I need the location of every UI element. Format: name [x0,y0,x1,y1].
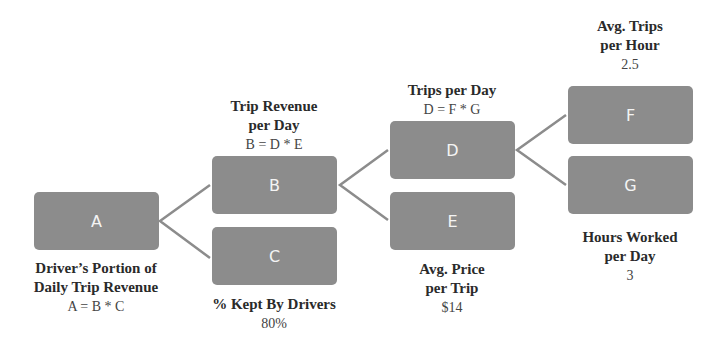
node-d-box: D [390,121,515,179]
node-a-title-1: Driver’s Portion of [6,259,186,278]
node-g-title-1: Hours Worked [540,228,720,247]
node-f-value: 2.5 [540,55,720,74]
node-c-box: C [212,227,337,285]
node-b-title-2: per Day [184,116,364,135]
node-a-title-2: Daily Trip Revenue [6,278,186,297]
node-c-value: 80% [184,314,364,333]
node-c-title: % Kept By Drivers [184,295,364,314]
node-a-box: A [34,192,159,250]
node-e-title-2: per Trip [362,279,542,298]
node-d-title: Trips per Day [362,81,542,100]
node-e-title-1: Avg. Price [362,260,542,279]
node-g-title-2: per Day [540,247,720,266]
node-c-label: % Kept By Drivers 80% [184,295,364,333]
node-b-title-1: Trip Revenue [184,97,364,116]
node-e-value: $14 [362,298,542,317]
node-e-label: Avg. Price per Trip $14 [362,260,542,317]
node-g-value: 3 [540,266,720,285]
node-d-label: Trips per Day D = F * G [362,81,542,119]
node-f-box: F [568,86,693,144]
node-e-box: E [390,192,515,250]
node-a-value: A = B * C [6,297,186,316]
node-g-label: Hours Worked per Day 3 [540,228,720,285]
node-b-value: B = D * E [184,135,364,154]
node-f-label: Avg. Trips per Hour 2.5 [540,17,720,74]
node-g-box: G [568,156,693,214]
node-f-title-2: per Hour [540,36,720,55]
node-a-label: Driver’s Portion of Daily Trip Revenue A… [6,259,186,316]
node-d-value: D = F * G [362,100,542,119]
node-b-label: Trip Revenue per Day B = D * E [184,97,364,154]
node-f-title-1: Avg. Trips [540,17,720,36]
node-b-box: B [212,156,337,214]
